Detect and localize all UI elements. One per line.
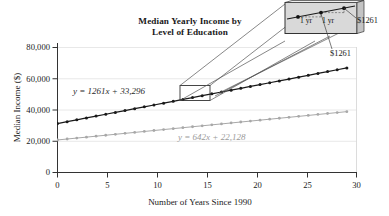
y-axis-ticks: [53, 48, 58, 173]
data-point: [210, 123, 213, 126]
data-point: [336, 68, 339, 71]
data-point: [307, 74, 310, 77]
data-point: [75, 137, 78, 140]
chart-figure: Median Yearly Income by Level of Educati…: [0, 0, 389, 216]
data-point: [114, 133, 117, 136]
data-series-layer: [56, 66, 348, 141]
data-point: [268, 81, 271, 84]
data-point: [104, 134, 107, 137]
data-point: [162, 128, 165, 131]
x-tick-label-15: 15: [198, 181, 218, 190]
data-point: [249, 120, 252, 123]
x-tick-label-30: 30: [347, 181, 367, 190]
x-tick-label-20: 20: [248, 181, 268, 190]
data-point: [326, 70, 329, 73]
data-point: [95, 115, 98, 118]
data-point: [297, 115, 300, 118]
callout-rise-label-1: 1 yr: [300, 17, 312, 25]
x-axis-ticks: [58, 173, 357, 178]
callout-value-right: $1261: [357, 17, 378, 25]
data-point: [152, 103, 155, 106]
data-point: [95, 135, 98, 138]
data-point: [143, 130, 146, 133]
axis-lines: [57, 43, 357, 173]
data-point: [172, 100, 175, 103]
data-point: [124, 132, 127, 135]
data-point: [114, 111, 117, 114]
data-point: [317, 113, 320, 116]
data-point: [85, 136, 88, 139]
data-point: [220, 123, 223, 126]
data-point: [345, 110, 348, 113]
x-tick-label-25: 25: [298, 181, 318, 190]
data-point: [297, 76, 300, 79]
data-point: [230, 122, 233, 125]
data-point: [268, 118, 271, 121]
data-point: [288, 116, 291, 119]
y-tick-label-60000: 60,000: [0, 75, 50, 84]
data-point: [66, 120, 69, 123]
y-tick-label-20000: 20,000: [0, 137, 50, 146]
data-point: [181, 126, 184, 129]
callout-value-mid: $1261: [330, 50, 351, 58]
x-tick-label-10: 10: [148, 181, 168, 190]
data-point: [172, 127, 175, 130]
data-point: [162, 102, 165, 105]
callout-rise-label-2: 1 yr: [322, 17, 334, 25]
data-point: [153, 129, 156, 132]
data-point: [85, 116, 88, 119]
data-point: [278, 79, 281, 82]
data-point: [239, 121, 242, 124]
equation-label-bachelors: y = 1261x + 33,296: [73, 87, 145, 96]
data-point: [191, 96, 194, 99]
data-point: [201, 94, 204, 97]
data-point: [316, 72, 319, 75]
data-point: [56, 122, 59, 125]
data-point: [287, 78, 290, 81]
data-point: [239, 87, 242, 90]
x-tick-label-5: 5: [98, 181, 118, 190]
y-tick-label-80000: 80,000: [0, 43, 50, 52]
data-point: [133, 107, 136, 110]
data-point: [75, 118, 78, 121]
data-point: [210, 92, 213, 95]
chart-title-line-1: Median Yearly Income by: [130, 17, 250, 26]
x-axis-label: Number of Years Since 1990: [75, 198, 325, 207]
data-point: [307, 114, 310, 117]
data-point: [124, 109, 127, 112]
chart-title-line-2: Level of Education: [130, 28, 250, 37]
data-point: [326, 112, 329, 115]
data-point: [201, 124, 204, 127]
equation-label-highschool: y = 642x + 22,128: [178, 133, 245, 142]
data-point: [133, 131, 136, 134]
data-point: [191, 125, 194, 128]
data-point: [336, 111, 339, 114]
data-point: [104, 113, 107, 116]
y-tick-label-0: 0: [0, 168, 50, 177]
data-point: [143, 105, 146, 108]
data-point: [66, 138, 69, 141]
data-point: [278, 117, 281, 120]
data-point: [259, 83, 262, 86]
data-point: [345, 66, 348, 69]
y-tick-label-40000: 40,000: [0, 106, 50, 115]
data-point: [249, 85, 252, 88]
x-tick-label-0: 0: [48, 181, 68, 190]
data-point: [259, 119, 262, 122]
